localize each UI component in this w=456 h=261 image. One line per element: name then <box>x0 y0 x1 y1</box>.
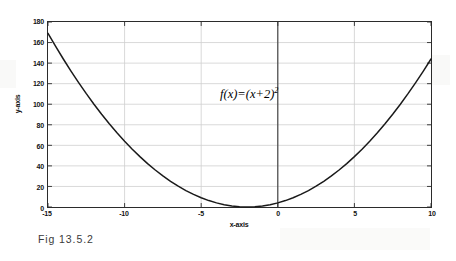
plot-area: f(x)=(x+2)2 <box>47 21 432 208</box>
scan-artifact <box>280 228 430 250</box>
figure-container: f(x)=(x+2)2 020406080100120140160180 -15… <box>0 0 456 261</box>
y-axis-title: y-axis <box>14 95 21 114</box>
parabola-curve <box>48 22 431 207</box>
y-tick-label: 20 <box>37 184 44 191</box>
y-tick-label: 60 <box>37 142 44 149</box>
y-tick-label: 180 <box>33 18 44 25</box>
x-axis-title: x-axis <box>230 221 249 228</box>
equation-annotation: f(x)=(x+2)2 <box>220 86 278 102</box>
y-axis-tick-labels: 020406080100120140160180 <box>20 21 44 208</box>
y-tick-label: 80 <box>37 121 44 128</box>
x-tick-label: 10 <box>428 210 435 217</box>
y-tick-label: 120 <box>33 80 44 87</box>
equation-base: f(x)=(x+2) <box>220 87 274 101</box>
equation-exponent: 2 <box>274 86 278 95</box>
y-tick-label: 40 <box>37 163 44 170</box>
x-tick-label: -15 <box>42 210 52 217</box>
figure-caption: Fig 13.5.2 <box>38 233 94 245</box>
y-tick-label: 140 <box>33 59 44 66</box>
scan-artifact <box>0 60 16 88</box>
y-tick-label: 100 <box>33 101 44 108</box>
x-tick-label: 5 <box>353 210 357 217</box>
x-tick-label: -10 <box>119 210 129 217</box>
y-tick-label: 160 <box>33 38 44 45</box>
x-tick-label: 0 <box>276 210 280 217</box>
x-tick-label: -5 <box>198 210 204 217</box>
